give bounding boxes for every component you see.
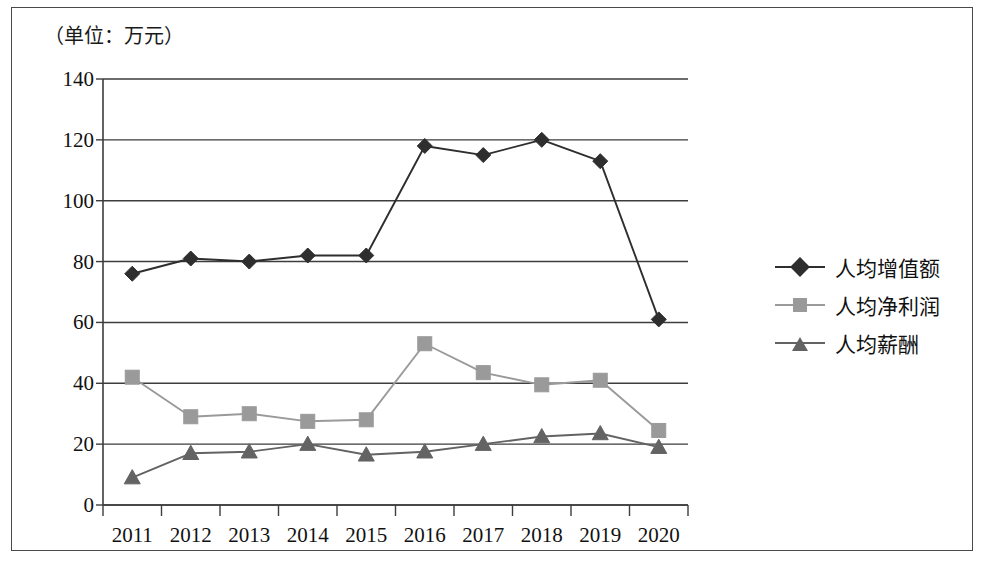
marker-square: [301, 414, 315, 428]
marker-square: [476, 366, 490, 380]
marker-triangle: [124, 470, 140, 484]
marker-diamond: [125, 266, 140, 281]
y-axis-tick-label: 20: [34, 432, 94, 457]
legend-label-1: 人均净利润: [835, 290, 940, 320]
legend-item-0[interactable]: 人均增值额: [775, 248, 975, 286]
axes-group: [103, 79, 688, 505]
legend-item-2[interactable]: 人均薪酬: [775, 324, 975, 362]
marker-square: [125, 370, 139, 384]
y-axis-tick-label: 60: [34, 310, 94, 335]
marker-triangle: [300, 436, 316, 450]
series-line-1: [132, 344, 659, 431]
y-axis-ticks-group: [96, 79, 103, 505]
marker-square: [418, 337, 432, 351]
gridlines-group: [103, 79, 688, 505]
marker-square: [652, 423, 666, 437]
marker-triangle: [592, 425, 608, 439]
y-axis-tick-label: 0: [34, 493, 94, 518]
legend-marker-triangle-icon: [775, 333, 825, 353]
marker-diamond: [417, 138, 432, 153]
marker-diamond: [300, 248, 315, 263]
series-lines-group: [132, 140, 659, 478]
series-line-0: [132, 140, 659, 320]
y-axis-tick-label: 140: [34, 67, 94, 92]
y-axis-tick-label: 120: [34, 127, 94, 152]
marker-square: [593, 373, 607, 387]
marker-diamond: [534, 132, 549, 147]
x-axis-ticks-group: [103, 505, 688, 516]
marker-square: [535, 378, 549, 392]
marker-square: [242, 407, 256, 421]
chart-legend: 人均增值额 人均净利润 人均薪酬: [775, 248, 975, 362]
marker-diamond: [183, 251, 198, 266]
legend-marker-square-icon: [775, 295, 825, 315]
marker-diamond: [651, 312, 666, 327]
chart-page: （单位：万元） 020406080100120140 2011201220132…: [0, 0, 985, 561]
legend-label-0: 人均增值额: [835, 252, 940, 282]
marker-diamond: [476, 148, 491, 163]
marker-diamond: [242, 254, 257, 269]
x-axis-tick-label: 2020: [624, 523, 694, 548]
y-axis-tick-label: 80: [34, 249, 94, 274]
marker-square: [359, 413, 373, 427]
y-axis-tick-label: 40: [34, 371, 94, 396]
legend-marker-diamond-icon: [775, 257, 825, 277]
y-axis-tick-label: 100: [34, 188, 94, 213]
marker-diamond: [593, 154, 608, 169]
series-line-2: [132, 433, 659, 477]
legend-label-2: 人均薪酬: [835, 328, 919, 358]
series-markers-group: [124, 132, 667, 483]
marker-diamond: [359, 248, 374, 263]
legend-item-1[interactable]: 人均净利润: [775, 286, 975, 324]
marker-square: [184, 410, 198, 424]
